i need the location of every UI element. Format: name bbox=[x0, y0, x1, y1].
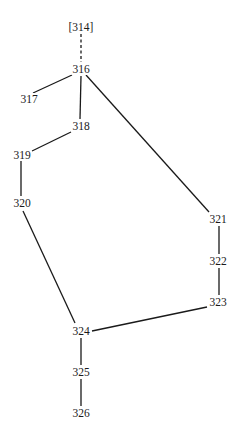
node-314: [314] bbox=[68, 21, 95, 33]
diagram-edges bbox=[0, 0, 239, 442]
node-320: 320 bbox=[12, 197, 31, 209]
node-319: 319 bbox=[12, 149, 31, 161]
node-321: 321 bbox=[208, 213, 227, 225]
node-326: 326 bbox=[71, 407, 90, 419]
edge-316-318 bbox=[80, 76, 81, 119]
node-324: 324 bbox=[71, 325, 90, 337]
edge-320-324 bbox=[23, 211, 75, 323]
node-322: 322 bbox=[208, 255, 227, 267]
edge-316-321 bbox=[86, 75, 209, 212]
node-318: 318 bbox=[71, 120, 90, 132]
node-316: 316 bbox=[71, 63, 90, 75]
edge-318-319 bbox=[32, 132, 71, 151]
node-323: 323 bbox=[208, 296, 227, 308]
node-325: 325 bbox=[71, 366, 90, 378]
edge-323-324 bbox=[92, 307, 207, 331]
node-317: 317 bbox=[19, 93, 38, 105]
edge-316-317 bbox=[33, 75, 72, 93]
